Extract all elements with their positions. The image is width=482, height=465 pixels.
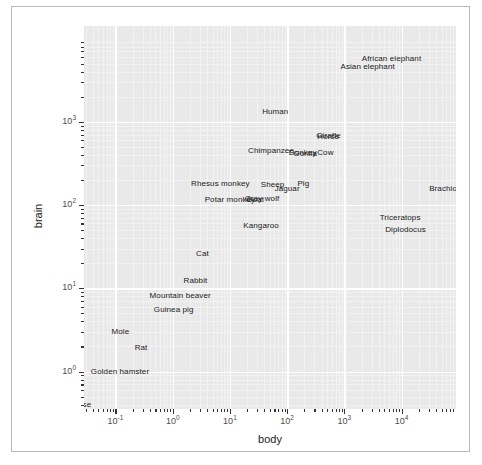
- gridline-minor-horizontal: [84, 405, 456, 406]
- gridline-major-horizontal: [84, 122, 456, 123]
- x-axis-tick: [230, 409, 231, 414]
- gridline-minor-horizontal: [84, 307, 456, 308]
- x-axis-tick-minor: [274, 409, 275, 412]
- data-point-label: Potar monkey: [205, 196, 256, 204]
- y-axis-tick-minor: [81, 296, 84, 297]
- x-axis-tick-minor: [213, 409, 214, 412]
- x-axis-tick-minor: [285, 409, 286, 412]
- gridline-minor-horizontal: [84, 82, 456, 83]
- x-axis-tick-label: 101: [216, 416, 244, 426]
- gridline-minor-horizontal: [84, 301, 456, 302]
- plot-panel: Mountain beaverCowGray wolfGoatGuinea pi…: [84, 26, 456, 409]
- y-axis-tick-minor: [81, 346, 84, 347]
- x-axis-tick-minor: [322, 409, 323, 412]
- x-axis-tick-minor: [393, 409, 394, 412]
- y-axis-tick-minor: [81, 332, 84, 333]
- y-axis-tick-minor: [81, 301, 84, 302]
- x-axis-tick-minor: [98, 409, 99, 412]
- y-axis-tick-minor: [81, 380, 84, 381]
- gridline-minor-horizontal: [84, 165, 456, 166]
- data-point-label: Rhesus monkey: [191, 180, 250, 188]
- data-point-label: Cow: [317, 149, 333, 157]
- x-axis-tick-minor: [190, 409, 191, 412]
- x-axis-label: body: [84, 433, 456, 445]
- x-axis-tick-minor: [207, 409, 208, 412]
- x-axis-tick: [115, 409, 116, 414]
- gridline-minor-horizontal: [84, 397, 456, 398]
- gridline-minor-horizontal: [84, 140, 456, 141]
- chart-figure: Mountain beaverCowGray wolfGoatGuinea pi…: [11, 6, 470, 452]
- gridline-minor-horizontal: [84, 126, 456, 127]
- x-axis-tick-minor: [419, 409, 420, 412]
- data-point-label: Kangaroo: [243, 222, 279, 230]
- x-axis-tick-label: 100: [159, 416, 187, 426]
- gridline-minor-horizontal: [84, 130, 456, 131]
- gridline-minor-horizontal: [84, 292, 456, 293]
- gridline-minor-horizontal: [84, 390, 456, 391]
- y-axis-tick-minor: [81, 155, 84, 156]
- y-axis-tick-minor: [81, 42, 84, 43]
- data-point-label: African elephant: [362, 55, 421, 63]
- x-axis-tick-minor: [396, 409, 397, 412]
- y-axis-tick-minor: [81, 130, 84, 131]
- x-axis-tick-minor: [304, 409, 305, 412]
- gridline-minor-horizontal: [84, 135, 456, 136]
- gridline-minor-horizontal: [84, 64, 456, 65]
- x-axis-tick-minor: [278, 409, 279, 412]
- data-point-label: Diplodocus: [385, 226, 426, 234]
- y-axis-tick-minor: [81, 72, 84, 73]
- x-axis-tick-minor: [170, 409, 171, 412]
- y-axis-tick-minor: [81, 384, 84, 385]
- data-point-label: Triceratops: [380, 214, 421, 222]
- gridline-minor-horizontal: [84, 380, 456, 381]
- x-axis-tick-minor: [86, 409, 87, 412]
- x-axis-tick-label: 10-1: [101, 416, 129, 426]
- x-axis-tick-minor: [436, 409, 437, 412]
- x-axis-tick-minor: [133, 409, 134, 412]
- x-axis-tick-minor: [164, 409, 165, 412]
- x-axis-tick-label: 102: [273, 416, 301, 426]
- gridline-minor-horizontal: [84, 332, 456, 333]
- y-axis-tick-minor: [81, 307, 84, 308]
- x-axis-tick-minor: [167, 409, 168, 412]
- x-axis-tick: [287, 409, 288, 414]
- x-axis-tick-minor: [314, 409, 315, 412]
- y-axis-tick-minor: [81, 51, 84, 52]
- x-axis-tick-minor: [257, 409, 258, 412]
- x-axis-tick-minor: [362, 409, 363, 412]
- data-point-label: Gorilla: [293, 150, 317, 158]
- x-axis-tick-minor: [336, 409, 337, 412]
- y-axis-tick: [79, 372, 84, 373]
- y-axis-tick-label: 101: [12, 282, 76, 292]
- gridline-minor-horizontal: [84, 209, 456, 210]
- x-axis-tick-minor: [264, 409, 265, 412]
- y-axis-tick-minor: [81, 218, 84, 219]
- y-axis-tick-label: 103: [12, 116, 76, 126]
- gridline-minor-horizontal: [84, 47, 456, 48]
- y-axis-tick-minor: [81, 82, 84, 83]
- gridline-major-vertical: [173, 26, 174, 409]
- y-axis-tick-minor: [81, 97, 84, 98]
- data-point-label: Chimpanzee: [248, 147, 294, 155]
- gridline-major-vertical: [287, 26, 288, 409]
- gridline-minor-horizontal: [84, 238, 456, 239]
- y-axis-tick-minor: [81, 223, 84, 224]
- x-axis-tick-minor: [453, 409, 454, 412]
- y-axis-tick-minor: [81, 375, 84, 376]
- gridline-minor-horizontal: [84, 321, 456, 322]
- data-point-label: Asian elephant: [340, 63, 394, 71]
- x-axis-tick-minor: [342, 409, 343, 412]
- y-axis-label: brain: [32, 196, 44, 236]
- y-axis-tick-minor: [81, 405, 84, 406]
- x-axis-tick-minor: [270, 409, 271, 412]
- gridline-major-vertical: [230, 26, 231, 409]
- y-axis-tick: [79, 288, 84, 289]
- y-axis-tick-minor: [81, 140, 84, 141]
- gridline-minor-horizontal: [84, 249, 456, 250]
- y-axis-tick-minor: [81, 230, 84, 231]
- x-axis-tick-minor: [429, 409, 430, 412]
- data-point-label: Golden hamster: [91, 368, 149, 376]
- x-axis-tick-minor: [155, 409, 156, 412]
- y-axis-tick-minor: [81, 292, 84, 293]
- y-axis-tick-minor: [81, 321, 84, 322]
